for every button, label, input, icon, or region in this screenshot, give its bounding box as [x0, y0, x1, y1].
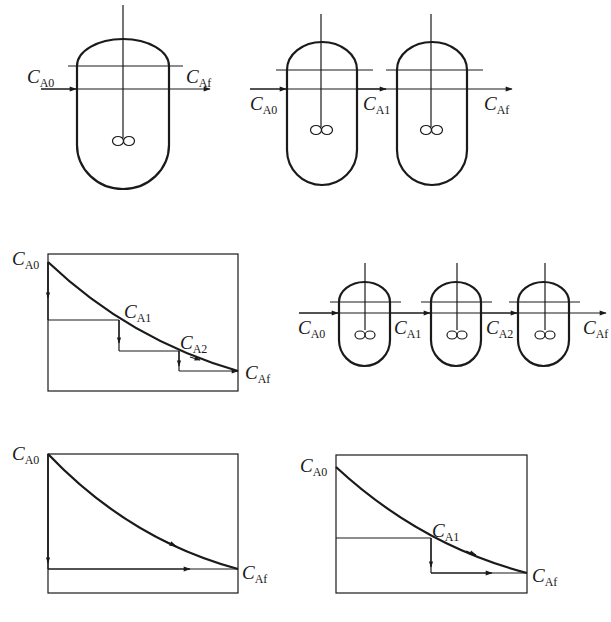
- label-intermediate2-conc: CA2: [486, 317, 513, 341]
- reactor-vessel-2: [431, 282, 481, 366]
- single-stage-plot: [48, 454, 238, 593]
- three-reactors-panel: [299, 263, 606, 366]
- label-step2-conc: CA2: [180, 332, 207, 356]
- label-end-conc: CAf: [242, 562, 267, 586]
- label-outlet-conc: CAf: [484, 93, 509, 117]
- label-step1-conc: CA1: [124, 301, 151, 325]
- label-step1-conc: CA1: [432, 520, 459, 544]
- label-intermediate1-conc: CA1: [394, 317, 421, 341]
- single-reactor-panel: [41, 5, 210, 189]
- impeller-icon: [355, 331, 375, 339]
- label-intermediate-conc: CA1: [363, 93, 390, 117]
- reactor-vessel-2: [397, 42, 467, 185]
- label-inlet-conc: CA0: [298, 317, 325, 341]
- label-inlet-conc: CA0: [27, 66, 54, 90]
- label-end-conc: CAf: [245, 362, 270, 386]
- diagram-svg: CA0 CAf CA0 CA1 CAf: [0, 0, 611, 622]
- label-start-conc: CA0: [300, 455, 327, 479]
- impeller-icon: [447, 331, 467, 339]
- two-reactors-panel: [250, 14, 512, 185]
- reactor-vessel-3: [518, 282, 569, 366]
- impeller-icon: [535, 331, 555, 339]
- label-end-conc: CAf: [532, 565, 557, 589]
- rate-curve: [48, 454, 238, 569]
- label-inlet-conc: CA0: [250, 93, 277, 117]
- label-start-conc: CA0: [12, 248, 39, 272]
- label-outlet-conc: CAf: [186, 66, 211, 90]
- plot-frame: [48, 454, 238, 593]
- label-outlet-conc: CAf: [583, 317, 608, 341]
- figure-canvas: CA0 CAf CA0 CA1 CAf: [0, 0, 611, 622]
- reactor-vessel-1: [287, 42, 357, 185]
- label-start-conc: CA0: [12, 443, 39, 467]
